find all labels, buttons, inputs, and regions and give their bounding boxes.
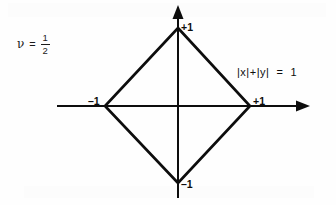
- plus-operator: +: [250, 66, 257, 78]
- y-axis-tick-label-positive-one: +1: [181, 22, 193, 33]
- fraction-numerator: 1: [42, 33, 49, 43]
- fraction-denominator: 2: [42, 46, 49, 56]
- x-axis-tick-label-negative-one: –1: [88, 96, 100, 107]
- one-half-fraction: 1 2: [41, 33, 50, 56]
- x-axis-arrowhead: [296, 101, 310, 112]
- plot-area: [0, 0, 336, 205]
- y-axis-tick-label-negative-one: –1: [181, 179, 193, 190]
- y-axis-arrowhead: [173, 5, 184, 19]
- norm-equation: |x|+|y| = 1: [237, 66, 297, 78]
- equation-value: 1: [291, 66, 298, 78]
- nu-symbol: ν: [17, 37, 24, 51]
- nu-equals-sign: =: [29, 38, 35, 50]
- equals-operator: =: [277, 66, 284, 78]
- nu-parameter-annotation: ν = 1 2: [17, 33, 50, 56]
- x-axis-tick-label-positive-one: +1: [253, 96, 265, 107]
- abs-bar-close-y: |: [266, 66, 269, 78]
- figure-container: +1 –1 –1 +1 |x|+|y| = 1 ν = 1 2: [0, 0, 336, 205]
